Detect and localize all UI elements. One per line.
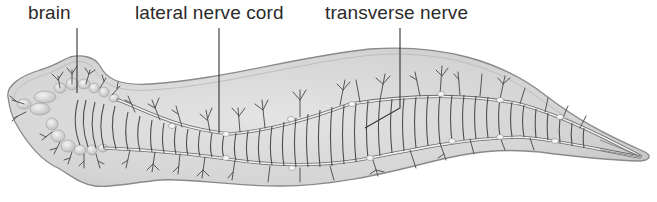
label-lateral-nerve-cord: lateral nerve cord — [135, 2, 284, 24]
label-brain: brain — [28, 2, 71, 24]
label-transverse-nerve: transverse nerve — [325, 2, 468, 24]
worm-body — [8, 48, 649, 186]
flatworm-illustration — [0, 0, 657, 202]
